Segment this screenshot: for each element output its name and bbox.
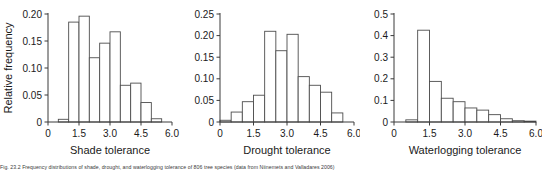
- x-tick-label: 3.0: [280, 128, 294, 139]
- histogram-waterlogging-tolerance: 00.10.20.30.40.501.53.04.56.0Waterloggin…: [358, 0, 542, 160]
- x-axis-title: Drought tolerance: [243, 144, 330, 156]
- y-tick-label: 0.20: [23, 9, 43, 20]
- y-tick-label: 0.5: [374, 9, 388, 20]
- y-tick-label: 0.25: [195, 9, 215, 20]
- x-tick-label: 4.5: [494, 128, 508, 139]
- x-axis-title: Shade tolerance: [70, 144, 150, 156]
- y-tick-label: 0: [208, 117, 214, 128]
- figure-caption: Fig. 23.2 Frequency distributions of sha…: [0, 164, 542, 170]
- chart-panel-shade-tolerance: 00.050.100.150.2001.53.04.56.0Shade tole…: [0, 0, 180, 170]
- histogram-shade-tolerance: 00.050.100.150.2001.53.04.56.0Shade tole…: [0, 0, 180, 160]
- x-tick-label: 4.5: [134, 128, 148, 139]
- y-tick-label: 0.1: [374, 95, 388, 106]
- histogram-bar: [276, 51, 287, 122]
- histogram-bar: [441, 98, 453, 122]
- x-tick-label: 3.0: [458, 128, 472, 139]
- y-tick-label: 0.4: [374, 30, 388, 41]
- histogram-bar: [89, 58, 99, 122]
- bar-group: [220, 31, 343, 122]
- histogram-drought-tolerance: 00.050.100.150.200.2501.53.04.56.0Drough…: [178, 0, 360, 160]
- histogram-bar: [242, 102, 253, 122]
- y-tick-label: 0: [36, 117, 42, 128]
- histogram-bar: [254, 95, 265, 122]
- x-axis-title: Waterlogging tolerance: [409, 144, 522, 156]
- histogram-bar: [453, 102, 465, 122]
- histogram-bar: [287, 34, 298, 122]
- x-tick-label: 0: [217, 128, 223, 139]
- y-tick-label: 0.05: [195, 95, 215, 106]
- histogram-bar: [131, 83, 141, 122]
- chart-panel-drought-tolerance: 00.050.100.150.200.2501.53.04.56.0Drough…: [178, 0, 360, 170]
- figure-container: 00.050.100.150.2001.53.04.56.0Shade tole…: [0, 0, 542, 170]
- histogram-bar: [309, 85, 320, 122]
- histogram-bar: [141, 103, 151, 122]
- bar-group: [58, 16, 161, 122]
- x-tick-label: 0: [391, 128, 397, 139]
- histogram-bar: [231, 112, 242, 122]
- histogram-bar: [477, 110, 489, 122]
- x-tick-label: 6.0: [529, 128, 542, 139]
- y-tick-label: 0.05: [23, 90, 43, 101]
- x-tick-label: 1.5: [247, 128, 261, 139]
- x-tick-label: 4.5: [314, 128, 328, 139]
- x-tick-label: 1.5: [72, 128, 86, 139]
- histogram-bar: [265, 31, 276, 122]
- y-tick-label: 0.10: [195, 73, 215, 84]
- histogram-bar: [110, 32, 120, 122]
- histogram-bar: [418, 30, 430, 122]
- histogram-bar: [465, 108, 477, 122]
- x-tick-label: 3.0: [103, 128, 117, 139]
- y-tick-label: 0.2: [374, 73, 388, 84]
- histogram-bar: [489, 115, 501, 122]
- y-axis-title: Relative frequency: [2, 22, 14, 114]
- histogram-bar: [100, 43, 110, 122]
- y-tick-label: 0: [382, 117, 388, 128]
- y-tick-label: 0.15: [23, 36, 43, 47]
- histogram-bar: [321, 92, 332, 122]
- histogram-bar: [332, 113, 343, 122]
- y-tick-label: 0.10: [23, 63, 43, 74]
- histogram-bar: [69, 22, 79, 122]
- y-tick-label: 0.15: [195, 52, 215, 63]
- histogram-bar: [430, 81, 442, 122]
- bar-group: [406, 30, 536, 122]
- x-tick-label: 1.5: [423, 128, 437, 139]
- chart-panel-waterlogging-tolerance: 00.10.20.30.40.501.53.04.56.0Waterloggin…: [358, 0, 542, 170]
- y-tick-label: 0.20: [195, 30, 215, 41]
- histogram-bar: [298, 77, 309, 122]
- y-tick-label: 0.3: [374, 52, 388, 63]
- x-tick-label: 0: [45, 128, 51, 139]
- histogram-bar: [79, 16, 89, 122]
- histogram-bar: [120, 85, 130, 122]
